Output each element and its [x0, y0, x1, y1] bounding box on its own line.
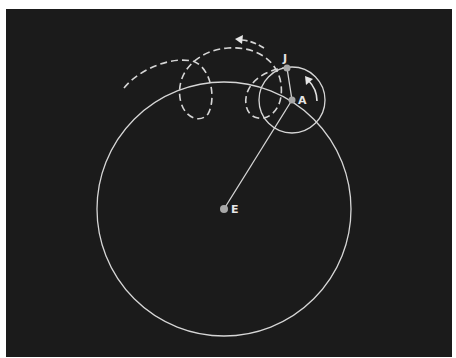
planet-label: J	[282, 52, 287, 65]
epicycle-center-point	[289, 97, 296, 104]
arrow-counterclockwise-icon	[305, 76, 317, 101]
arrow-left-icon	[235, 35, 264, 48]
epicycle-diagram: E A J	[0, 0, 456, 358]
earth-label: E	[231, 203, 239, 216]
deferent-radius-line	[224, 100, 292, 209]
earth-point	[220, 205, 228, 213]
epicycle-center-label: A	[298, 94, 307, 107]
planet-point	[284, 65, 291, 72]
epicycle-radius-line	[287, 68, 292, 100]
